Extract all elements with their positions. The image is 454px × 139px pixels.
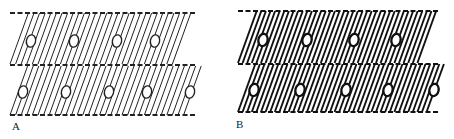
hatch-line <box>27 66 45 115</box>
hatch-line <box>325 64 342 112</box>
oval-marker <box>111 34 123 48</box>
panel-label-b: B <box>236 118 243 130</box>
hatch-line <box>362 64 379 112</box>
hatch-line <box>266 64 283 112</box>
hatch-line <box>161 13 179 64</box>
hatch-line <box>44 66 62 115</box>
panel-b <box>238 11 444 112</box>
hatch-line <box>77 13 95 64</box>
hatch-line <box>167 66 185 115</box>
hatch-line <box>275 64 292 112</box>
hatch-line <box>156 66 174 115</box>
hatch-line <box>312 64 329 112</box>
upper-band <box>10 13 191 64</box>
hatch-line <box>88 66 106 115</box>
oval-marker <box>103 85 115 99</box>
hatch-line <box>167 13 185 64</box>
hatch-line <box>122 13 140 64</box>
oval-marker <box>25 34 37 48</box>
oval-marker <box>184 85 196 99</box>
hatch-line <box>261 64 278 112</box>
lower-band <box>238 64 444 112</box>
oval-marker <box>17 85 29 99</box>
hatch-line <box>77 66 95 115</box>
hatch-line <box>316 64 333 112</box>
hatch-line <box>408 64 425 112</box>
hatch-line <box>161 66 179 115</box>
hatch-line <box>32 66 50 115</box>
oval-marker <box>149 34 161 48</box>
hatch-line <box>83 66 101 115</box>
hatch-line <box>133 13 151 64</box>
upper-band <box>238 11 436 63</box>
hatch-line <box>172 13 190 64</box>
panel-label-a: A <box>12 120 20 132</box>
panel-a <box>10 13 201 115</box>
hatch-line <box>270 64 287 112</box>
hatch-line <box>122 66 140 115</box>
diagram-canvas <box>0 0 454 139</box>
oval-marker <box>428 83 440 97</box>
hatch-line <box>413 64 430 112</box>
hatch-line <box>150 66 168 115</box>
hatch-line <box>404 64 421 112</box>
hatch-line <box>394 64 411 112</box>
hatch-line <box>116 66 134 115</box>
hatch-line <box>10 13 28 64</box>
hatch-line <box>358 64 375 112</box>
hatch-line <box>38 13 56 64</box>
hatch-line <box>88 13 106 64</box>
hatch-line <box>128 13 146 64</box>
hatch-line <box>279 64 296 112</box>
hatch-line <box>38 66 56 115</box>
hatch-line <box>83 13 101 64</box>
hatch-line <box>94 13 112 64</box>
hatch-line <box>44 13 62 64</box>
lower-band <box>10 66 201 115</box>
hatch-line <box>367 64 384 112</box>
hatch-line <box>72 66 90 115</box>
hatch-line <box>49 13 67 64</box>
hatch-line <box>399 64 416 112</box>
oval-marker <box>60 85 72 99</box>
hatch-line <box>307 64 324 112</box>
hatch-line <box>353 64 370 112</box>
hatch-line <box>321 64 338 112</box>
